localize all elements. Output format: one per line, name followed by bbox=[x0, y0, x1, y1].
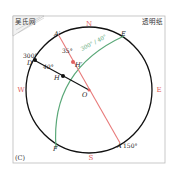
compass-south: S bbox=[89, 154, 94, 162]
stereonet-figure: 吴氏网 透明纸 (C) N S W E A′ E F A D H H′ O 30… bbox=[0, 0, 179, 180]
angle-d-label: 300° bbox=[23, 52, 37, 59]
label-f: F bbox=[52, 145, 58, 153]
angle-a-label: 150° bbox=[123, 142, 137, 149]
point-h bbox=[61, 74, 65, 78]
top-left-label: 吴氏网 bbox=[15, 17, 36, 26]
label-o: O bbox=[82, 91, 88, 99]
compass-west: W bbox=[17, 86, 25, 94]
panel-label: (C) bbox=[15, 154, 26, 162]
label-a-prime: A′ bbox=[53, 30, 61, 38]
compass-east: E bbox=[156, 86, 161, 94]
point-o bbox=[88, 89, 91, 92]
label-h-prime: H′ bbox=[74, 61, 83, 69]
label-h: H bbox=[53, 74, 60, 82]
label-a: A bbox=[116, 142, 122, 150]
angle-red-label: 35° bbox=[62, 47, 73, 54]
compass-north: N bbox=[86, 20, 92, 28]
label-e: E bbox=[120, 30, 126, 38]
label-d: D bbox=[26, 59, 33, 67]
top-right-label: 透明纸 bbox=[142, 17, 163, 26]
stereonet-svg: 吴氏网 透明纸 (C) N S W E A′ E F A D H H′ O 30… bbox=[0, 0, 179, 180]
angle-do-label: 40° bbox=[42, 63, 54, 70]
